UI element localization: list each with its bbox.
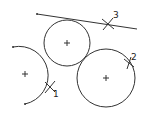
arc-endpoint-end bbox=[24, 103, 26, 105]
arc-endpoint-start bbox=[12, 46, 14, 48]
marker-1-label: 1 bbox=[53, 89, 59, 99]
center-mark-left bbox=[22, 71, 28, 77]
center-mark-right bbox=[103, 75, 109, 81]
diagram-canvas: 1 2 3 bbox=[0, 0, 149, 114]
line-endpoint bbox=[36, 13, 38, 15]
marker-2-label: 2 bbox=[131, 52, 137, 62]
tangent-line bbox=[37, 14, 137, 29]
marker-3-label: 3 bbox=[113, 10, 119, 20]
arc-left bbox=[13, 46, 48, 104]
center-mark-top bbox=[64, 40, 70, 46]
